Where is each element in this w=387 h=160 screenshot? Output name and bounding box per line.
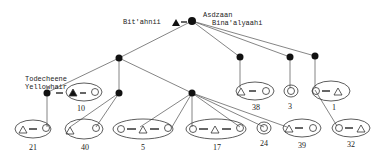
father-label: Bit'ahnii [123, 18, 161, 26]
household-number: 39 [298, 141, 306, 150]
household-number: 32 [347, 140, 355, 149]
household-number: 5 [141, 143, 145, 152]
left-label-line2: Yellowhair [25, 83, 67, 91]
mother-label-line1: Asdzaan [203, 11, 232, 19]
household-number: 21 [29, 143, 37, 152]
household-number: 10 [77, 104, 85, 113]
left-label-line1: Todecheene [25, 75, 67, 83]
filled-triangle-icon [172, 19, 180, 26]
household-number: 17 [213, 143, 221, 152]
household-number: 24 [260, 139, 268, 148]
mother-label-line2: Bina'alyaahi [212, 19, 262, 27]
household-number: 38 [252, 103, 260, 112]
descent-lines [46, 21, 337, 127]
household-number: 40 [81, 143, 89, 152]
filled-circle-icon [188, 17, 196, 25]
household-number: 3 [288, 102, 292, 111]
household-number: 1 [332, 103, 336, 112]
